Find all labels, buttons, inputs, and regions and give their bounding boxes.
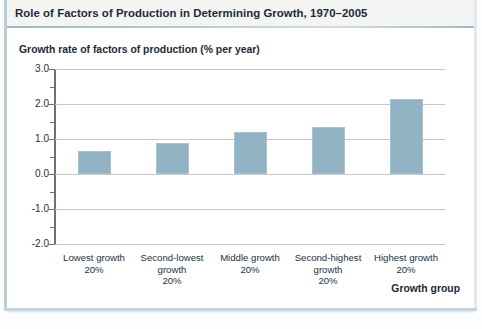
figure-bottom-shadow xyxy=(7,311,474,315)
bar xyxy=(312,127,345,174)
y-tick-label: -2.0 xyxy=(9,238,49,249)
bar xyxy=(156,143,189,175)
x-category-line: Second-highest xyxy=(285,252,371,264)
x-axis-baseline xyxy=(55,244,445,245)
y-axis-line xyxy=(54,69,56,245)
x-category-label: Lowest growth20% xyxy=(51,252,137,275)
x-axis-title: Growth group xyxy=(391,283,460,294)
y-tick-minor xyxy=(50,227,54,228)
x-category-label: Second-lowestgrowth20% xyxy=(129,252,215,287)
x-category-line: 20% xyxy=(363,264,449,276)
figure-container: Role of Factors of Production in Determi… xyxy=(0,0,482,329)
figure-title-bar: Role of Factors of Production in Determi… xyxy=(7,0,474,26)
x-category-line: Lowest growth xyxy=(51,252,137,264)
x-category-line: growth xyxy=(129,264,215,276)
bar xyxy=(234,132,267,174)
x-category-line: 20% xyxy=(285,275,371,287)
x-category-line: 20% xyxy=(129,275,215,287)
y-tick-major xyxy=(49,104,54,105)
x-category-line: 20% xyxy=(51,264,137,276)
y-tick-minor xyxy=(50,87,54,88)
y-tick-label: -1.0 xyxy=(9,203,49,214)
y-gridline xyxy=(55,174,445,175)
y-tick-major xyxy=(49,174,54,175)
x-category-line: 20% xyxy=(207,264,293,276)
x-category-line: Middle growth xyxy=(207,252,293,264)
y-tick-minor xyxy=(50,192,54,193)
y-tick-major xyxy=(49,69,54,70)
figure-title: Role of Factors of Production in Determi… xyxy=(7,7,367,19)
bar xyxy=(78,151,111,174)
y-tick-major xyxy=(49,209,54,210)
x-category-line: Second-lowest xyxy=(129,252,215,264)
y-tick-label: 2.0 xyxy=(9,98,49,109)
y-tick-minor xyxy=(50,157,54,158)
y-tick-major xyxy=(49,244,54,245)
y-tick-major xyxy=(49,139,54,140)
y-gridline xyxy=(55,69,445,70)
bar xyxy=(390,99,423,174)
frame-right-border xyxy=(474,0,477,311)
chart-body: Growth rate of factors of production (% … xyxy=(7,28,474,308)
x-category-label: Middle growth20% xyxy=(207,252,293,275)
x-category-line: growth xyxy=(285,264,371,276)
y-gridline xyxy=(55,209,445,210)
y-tick-label: 1.0 xyxy=(9,133,49,144)
x-category-label: Second-highestgrowth20% xyxy=(285,252,371,287)
y-tick-label: 3.0 xyxy=(9,63,49,74)
y-tick-minor xyxy=(50,122,54,123)
x-category-line: Highest growth xyxy=(363,252,449,264)
x-category-label: Highest growth20% xyxy=(363,252,449,275)
y-tick-label: 0.0 xyxy=(9,168,49,179)
y-gridline xyxy=(55,104,445,105)
plot-area: 3.02.01.00.0-1.0-2.0Lowest growth20%Seco… xyxy=(7,28,474,308)
